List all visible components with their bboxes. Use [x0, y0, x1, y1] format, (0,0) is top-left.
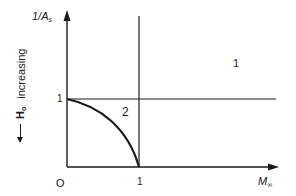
- y-axis-arrow-icon: [64, 10, 71, 21]
- h0-symbol: Ho: [14, 107, 27, 119]
- diagram-canvas: [0, 0, 296, 196]
- y-axis-label: 1/As: [32, 11, 52, 23]
- region-1-label: 1: [233, 58, 239, 69]
- down-arrow-icon: [20, 124, 21, 138]
- x-axis-arrow-icon: [268, 164, 279, 171]
- side-annotation: Ho increasing: [14, 49, 27, 138]
- x-tick-one-label: 1: [137, 177, 143, 187]
- region-2-label: 2: [122, 106, 129, 118]
- y-tick-one-label: 1: [57, 94, 63, 104]
- origin-label: O: [56, 178, 65, 189]
- x-axis-label: M∞: [258, 176, 272, 188]
- increasing-text: increasing: [15, 49, 27, 99]
